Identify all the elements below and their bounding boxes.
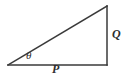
triangle-hypotenuse-side xyxy=(8,6,107,65)
angle-theta-label: θ xyxy=(26,50,31,61)
vertical-side-label-q: Q xyxy=(112,28,121,40)
right-triangle-figure: θ P Q xyxy=(0,0,126,77)
triangle-drawing xyxy=(0,0,126,77)
base-side-label-p: P xyxy=(52,63,59,75)
